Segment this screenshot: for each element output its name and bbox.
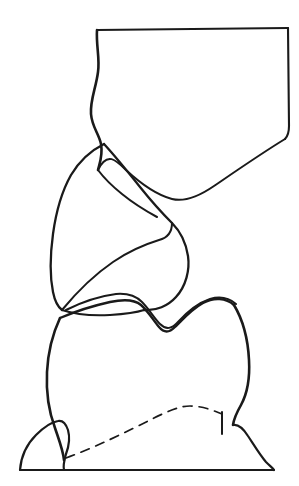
line-drawing-canvas <box>0 0 299 486</box>
figure-root: FIGURE 10-7 , (cont.) <box>0 0 299 486</box>
